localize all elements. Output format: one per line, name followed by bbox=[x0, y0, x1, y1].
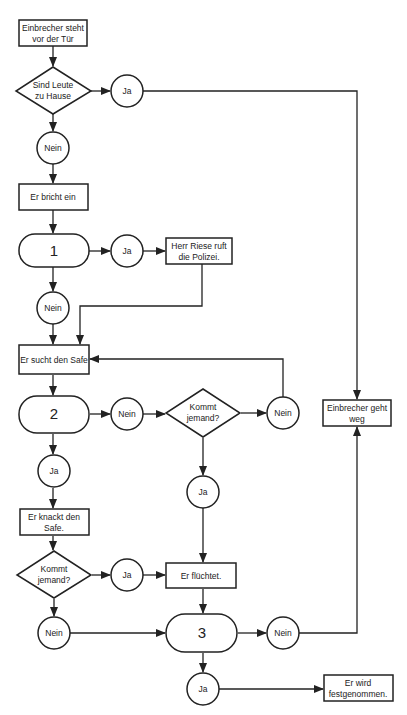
svg-text:Er bricht ein: Er bricht ein bbox=[30, 192, 76, 202]
svg-text:Kommt: Kommt bbox=[190, 402, 218, 412]
svg-text:Einbrecher steht: Einbrecher steht bbox=[22, 23, 85, 33]
svg-text:Er knackt den: Er knackt den bbox=[28, 512, 80, 522]
svg-text:Sind Leute: Sind Leute bbox=[33, 80, 74, 90]
svg-text:Er sucht den Safe: Er sucht den Safe bbox=[20, 355, 88, 365]
circle-3-ja: Ja bbox=[187, 673, 219, 705]
node-search-safe: Er sucht den Safe bbox=[19, 345, 89, 374]
svg-text:3: 3 bbox=[198, 624, 206, 641]
circle-comes-a-ja: Ja bbox=[187, 476, 219, 508]
connectors bbox=[53, 46, 357, 689]
svg-text:Nein: Nein bbox=[45, 628, 63, 638]
circle-comes-b-ja: Ja bbox=[111, 559, 143, 591]
svg-text:Ja: Ja bbox=[199, 487, 208, 497]
circle-3-nein: Nein bbox=[267, 617, 299, 649]
svg-text:jemand?: jemand? bbox=[186, 413, 220, 423]
stadium-3: 3 bbox=[166, 614, 237, 652]
svg-text:Nein: Nein bbox=[274, 408, 292, 418]
circle-2-nein: Nein bbox=[111, 398, 143, 430]
svg-text:Ja: Ja bbox=[199, 684, 208, 694]
circle-home-nein: Nein bbox=[37, 132, 69, 164]
circle-1-ja: Ja bbox=[111, 235, 143, 267]
node-start: Einbrecher steht vor der Tür bbox=[19, 20, 87, 46]
svg-text:Ja: Ja bbox=[50, 466, 59, 476]
svg-text:Er flüchtet.: Er flüchtet. bbox=[181, 571, 222, 581]
circle-comes-b-nein: Nein bbox=[38, 617, 70, 649]
svg-text:Einbrecher geht: Einbrecher geht bbox=[327, 403, 388, 413]
svg-text:vor der Tür: vor der Tür bbox=[32, 34, 74, 44]
decision-comes-b: Kommt jemand? bbox=[17, 551, 91, 598]
node-breaks-in: Er bricht ein bbox=[19, 184, 88, 210]
svg-text:Kommt: Kommt bbox=[41, 564, 69, 574]
svg-text:2: 2 bbox=[50, 405, 58, 422]
node-flees: Er flüchtet. bbox=[166, 563, 236, 588]
circle-home-ja: Ja bbox=[111, 75, 143, 107]
circle-comes-a-nein: Nein bbox=[267, 397, 299, 429]
decision-comes-a: Kommt jemand? bbox=[166, 389, 240, 437]
svg-text:Ja: Ja bbox=[123, 86, 132, 96]
svg-text:Nein: Nein bbox=[44, 143, 62, 153]
svg-text:die Polizei.: die Polizei. bbox=[178, 252, 219, 262]
svg-text:Nein: Nein bbox=[44, 303, 62, 313]
svg-text:Nein: Nein bbox=[118, 409, 136, 419]
svg-text:jemand?: jemand? bbox=[37, 575, 71, 585]
stadium-1: 1 bbox=[19, 234, 89, 267]
circle-1-nein: Nein bbox=[37, 292, 69, 324]
svg-text:Safe.: Safe. bbox=[44, 523, 64, 533]
node-arrested: Er wird festgenommen. bbox=[324, 675, 393, 701]
svg-text:Nein: Nein bbox=[274, 628, 292, 638]
svg-text:Herr Riese ruft: Herr Riese ruft bbox=[171, 241, 227, 251]
flowchart: Einbrecher steht vor der Tür Sind Leute … bbox=[0, 0, 407, 715]
circle-2-ja: Ja bbox=[38, 455, 70, 487]
svg-text:zu Hause: zu Hause bbox=[35, 91, 71, 101]
svg-text:Ja: Ja bbox=[123, 246, 132, 256]
svg-text:festgenommen.: festgenommen. bbox=[329, 689, 388, 699]
svg-text:Ja: Ja bbox=[123, 570, 132, 580]
svg-text:1: 1 bbox=[50, 242, 58, 259]
node-cracks-safe: Er knackt den Safe. bbox=[20, 509, 89, 535]
node-police: Herr Riese ruft die Polizei. bbox=[166, 238, 232, 264]
svg-text:weg: weg bbox=[348, 414, 365, 424]
stadium-2: 2 bbox=[19, 396, 89, 433]
node-leaves: Einbrecher geht weg bbox=[323, 400, 391, 426]
svg-text:Er wird: Er wird bbox=[345, 678, 372, 688]
decision-home: Sind Leute zu Hause bbox=[16, 67, 91, 114]
